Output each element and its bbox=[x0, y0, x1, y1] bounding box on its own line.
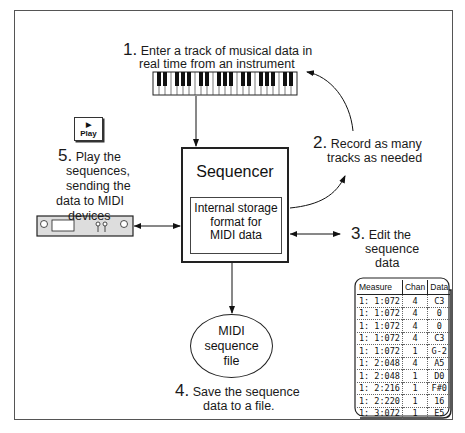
table-row[interactable]: 1: 1:0724C3 bbox=[357, 332, 450, 345]
table-row[interactable]: 1: 2:220116 bbox=[357, 395, 450, 408]
cell-chan[interactable]: 1 bbox=[402, 407, 427, 419]
cell-chan[interactable]: 1 bbox=[402, 382, 427, 395]
table-row[interactable]: 1: 3:0721E5 bbox=[357, 407, 450, 419]
cell-data[interactable]: G-2 bbox=[428, 345, 450, 358]
cell-measure[interactable]: 1: 1:072 bbox=[357, 345, 402, 358]
play-button[interactable]: ▶ Play bbox=[74, 117, 103, 141]
table-header-row: Measure Chan Data bbox=[357, 280, 450, 295]
cell-chan[interactable]: 4 bbox=[402, 307, 427, 320]
play-triangle-icon: ▶ bbox=[75, 120, 102, 129]
step3-line2: sequence bbox=[365, 242, 419, 257]
cell-chan[interactable]: 4 bbox=[402, 357, 427, 370]
step2-label: 2. Record as many bbox=[313, 135, 422, 152]
cell-measure[interactable]: 1: 1:072 bbox=[357, 332, 402, 345]
step5-line5: devices bbox=[68, 209, 110, 224]
cell-data[interactable]: C3 bbox=[428, 332, 450, 345]
step4-line2: data to a file. bbox=[203, 399, 275, 414]
table-row[interactable]: 1: 1:0724C3 bbox=[357, 295, 450, 308]
cell-chan[interactable]: 4 bbox=[402, 320, 427, 333]
cell-data[interactable]: F#0 bbox=[428, 382, 450, 395]
cell-chan[interactable]: 1 bbox=[402, 370, 427, 383]
cell-chan[interactable]: 1 bbox=[402, 395, 427, 408]
step4-label: 4. Save the sequence bbox=[175, 383, 300, 400]
arrow-record-to-enter bbox=[307, 72, 353, 131]
cell-data[interactable]: E5 bbox=[428, 407, 450, 419]
cell-data[interactable]: 0 bbox=[428, 320, 450, 333]
step5-label: 5. Play the bbox=[58, 148, 121, 165]
table-row[interactable]: 1: 1:07240 bbox=[357, 320, 450, 333]
cell-data[interactable]: 0 bbox=[428, 307, 450, 320]
column-header-measure[interactable]: Measure bbox=[357, 280, 402, 295]
table-row[interactable]: 1: 1:0721G-2 bbox=[357, 345, 450, 358]
cell-measure[interactable]: 1: 2:216 bbox=[357, 382, 402, 395]
cell-measure[interactable]: 1: 2:048 bbox=[357, 357, 402, 370]
cell-measure[interactable]: 1: 1:072 bbox=[357, 295, 402, 308]
cell-measure[interactable]: 1: 2:048 bbox=[357, 370, 402, 383]
table-row[interactable]: 1: 2:0481D0 bbox=[357, 370, 450, 383]
step3-line3: data bbox=[375, 256, 399, 271]
table-row[interactable]: 1: 2:0484A5 bbox=[357, 357, 450, 370]
cell-chan[interactable]: 1 bbox=[402, 345, 427, 358]
cell-chan[interactable]: 4 bbox=[402, 295, 427, 308]
piano-keyboard-icon bbox=[153, 72, 297, 95]
table-row[interactable]: 1: 1:07240 bbox=[357, 307, 450, 320]
cell-data[interactable]: D0 bbox=[428, 370, 450, 383]
cell-data[interactable]: 16 bbox=[428, 395, 450, 408]
internal-storage-box: Internal storage format for MIDI data bbox=[190, 197, 282, 254]
sequencer-box: Sequencer Internal storage format for MI… bbox=[181, 147, 289, 263]
step5-line4: data to MIDI bbox=[56, 194, 124, 209]
event-list-table: Measure Chan Data 1: 1:0724C31: 1:072401… bbox=[357, 280, 450, 419]
column-header-chan[interactable]: Chan bbox=[402, 280, 427, 295]
cell-chan[interactable]: 4 bbox=[402, 332, 427, 345]
cell-data[interactable]: A5 bbox=[428, 357, 450, 370]
step5-line2: sequences, bbox=[66, 164, 130, 179]
cell-data[interactable]: C3 bbox=[428, 295, 450, 308]
cell-measure[interactable]: 1: 3:072 bbox=[357, 407, 402, 419]
step3-label: 3. Edit the bbox=[351, 226, 411, 243]
midi-sequence-file: MIDI sequence file bbox=[190, 314, 273, 378]
arrow-sequencer-to-record bbox=[290, 176, 345, 208]
column-header-data[interactable]: Data bbox=[428, 280, 450, 295]
step1-line2: real time from an instrument bbox=[139, 57, 295, 72]
step2-line2: tracks as needed bbox=[327, 151, 422, 166]
cell-measure[interactable]: 1: 2:220 bbox=[357, 395, 402, 408]
step5-line3: sending the bbox=[66, 179, 131, 194]
cell-measure[interactable]: 1: 1:072 bbox=[357, 307, 402, 320]
sequencer-title: Sequencer bbox=[183, 163, 287, 181]
cell-measure[interactable]: 1: 1:072 bbox=[357, 320, 402, 333]
table-row[interactable]: 1: 2:2161F#0 bbox=[357, 382, 450, 395]
